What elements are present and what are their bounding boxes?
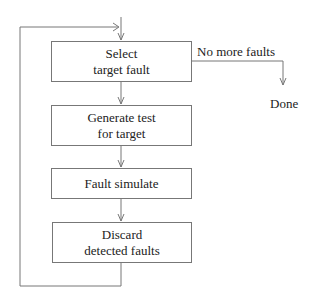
node-text: Select [93,46,149,62]
node-discard-detected: Discard detected faults [52,222,192,263]
exit-label: No more faults [197,44,275,60]
node-text: for target [87,126,155,142]
node-text: Fault simulate [84,176,158,192]
node-fault-simulate: Fault simulate [51,168,192,199]
node-text: Generate test [87,110,155,126]
terminal-done: Done [270,96,298,112]
node-text: detected faults [84,243,159,259]
node-text: Discard [84,227,159,243]
node-text: target fault [93,62,149,78]
node-generate-test: Generate test for target [51,105,192,146]
node-select-target-fault: Select target fault [51,41,192,82]
